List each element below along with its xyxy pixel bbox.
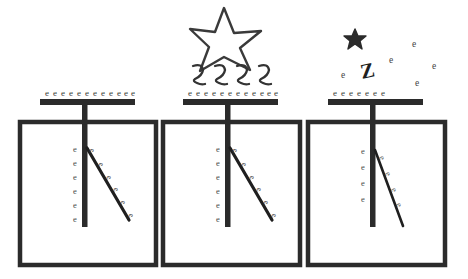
- electron-symbol: e: [73, 144, 77, 154]
- free-electron-symbol: e: [389, 55, 393, 65]
- electron-symbol: e: [93, 88, 97, 98]
- electron-symbol: e: [260, 88, 264, 98]
- electron-symbol: e: [220, 88, 224, 98]
- electron-symbol: e: [381, 88, 385, 98]
- electron-symbol: e: [69, 88, 73, 98]
- electron-symbol: e: [111, 185, 122, 193]
- plate-electrons-panel-1: e e e e e e e e e e e e: [45, 88, 135, 98]
- electron-symbol: e: [365, 88, 369, 98]
- leaf-electrons-panel-3: e e e e: [377, 154, 405, 208]
- electron-symbol: e: [77, 88, 81, 98]
- electron-symbol: e: [252, 88, 256, 98]
- electron-symbol: e: [126, 211, 137, 219]
- electron-symbol: e: [269, 211, 280, 219]
- electron-symbol: e: [361, 194, 365, 204]
- electron-symbol: e: [230, 146, 241, 154]
- electron-symbol: e: [228, 88, 232, 98]
- electron-symbol: e: [73, 186, 77, 196]
- electron-symbol: e: [361, 146, 365, 156]
- enclosure-box: [20, 122, 156, 265]
- electron-symbol: e: [361, 162, 365, 172]
- panel-illuminated: e e e e e e e e e e e e e e e e e: [163, 8, 300, 265]
- electron-symbol: e: [247, 173, 258, 181]
- electron-symbol: e: [216, 172, 220, 182]
- electron-symbol: e: [267, 88, 271, 98]
- enclosure-box: [308, 122, 445, 265]
- diagram-canvas: e e e e e e e e e e e e e e: [0, 0, 468, 279]
- electron-symbol: e: [216, 144, 220, 154]
- photon-squiggle-icon: [193, 65, 205, 84]
- electron-symbol: e: [274, 88, 278, 98]
- photoelectric-effect-diagram: e e e e e e e e e e e e e e: [0, 0, 468, 279]
- free-electron-symbol: e: [412, 39, 416, 49]
- rod-electrons-panel-3: e e e e: [361, 146, 365, 204]
- electron-symbol: e: [254, 185, 265, 193]
- photon-bold-symbol: Z: [358, 58, 377, 84]
- electron-symbol: e: [109, 88, 113, 98]
- electron-symbol: e: [389, 186, 400, 193]
- free-electron-symbol: e: [341, 70, 345, 80]
- free-electron-symbol: e: [415, 78, 419, 88]
- electron-symbol: e: [373, 88, 377, 98]
- electron-symbol: e: [341, 88, 345, 98]
- electron-symbol: e: [216, 158, 220, 168]
- electron-symbol: e: [383, 170, 394, 177]
- enclosure-box: [163, 122, 300, 265]
- electron-symbol: e: [85, 88, 89, 98]
- electron-symbol: e: [73, 200, 77, 210]
- plate-electrons-panel-2: e e e e e e e e e e e e: [188, 88, 278, 98]
- star-outline-icon: [190, 8, 261, 71]
- free-electrons-panel-3: e e e e e: [341, 39, 436, 88]
- electron-symbol: e: [104, 173, 115, 181]
- plate-electrons-panel-3: e e e e e e e: [333, 88, 385, 98]
- electron-symbol: e: [124, 88, 128, 98]
- electron-symbol: e: [196, 88, 200, 98]
- electron-symbol: e: [349, 88, 353, 98]
- rod-electrons-panel-1: e e e e e e: [73, 144, 77, 224]
- panel-charged: e e e e e e e e e e e e e e: [20, 88, 156, 265]
- electron-symbol: e: [239, 160, 250, 168]
- electron-symbol: e: [244, 88, 248, 98]
- electron-symbol: e: [361, 178, 365, 188]
- leaf-electrons-panel-1: e e e e e e: [87, 146, 137, 219]
- electron-symbol: e: [117, 88, 121, 98]
- photon-squiggle-icon: [237, 65, 249, 84]
- electron-symbol: e: [101, 88, 105, 98]
- electron-symbol: e: [204, 88, 208, 98]
- electron-symbol: e: [61, 88, 65, 98]
- electron-symbol: e: [131, 88, 135, 98]
- electron-symbol: e: [73, 158, 77, 168]
- rod-electrons-panel-2: e e e e e e: [216, 144, 220, 224]
- panel-discharging: Z e e e e e e e e e e e e: [308, 29, 445, 265]
- electron-symbol: e: [261, 198, 272, 206]
- electron-symbol: e: [394, 201, 405, 208]
- electron-symbol: e: [73, 214, 77, 224]
- gold-leaf: [230, 148, 272, 220]
- electron-symbol: e: [45, 88, 49, 98]
- electron-symbol: e: [216, 186, 220, 196]
- electron-symbol: e: [377, 154, 388, 161]
- electron-symbol: e: [87, 146, 98, 154]
- photon-squiggle-icon: [215, 65, 227, 84]
- electron-symbol: e: [357, 88, 361, 98]
- electron-symbol: e: [188, 88, 192, 98]
- electron-symbol: e: [216, 214, 220, 224]
- electron-symbol: e: [236, 88, 240, 98]
- electron-symbol: e: [73, 172, 77, 182]
- leaf-electrons-panel-2: e e e e e e: [230, 146, 280, 219]
- electron-symbol: e: [212, 88, 216, 98]
- gold-leaf: [87, 148, 129, 220]
- star-small-icon: [344, 29, 366, 49]
- electron-symbol: e: [216, 200, 220, 210]
- electron-symbol: e: [96, 160, 107, 168]
- electron-symbol: e: [118, 198, 129, 206]
- electron-symbol: e: [53, 88, 57, 98]
- free-electron-symbol: e: [432, 61, 436, 71]
- photon-squiggle-icon: [259, 65, 271, 84]
- electron-symbol: e: [333, 88, 337, 98]
